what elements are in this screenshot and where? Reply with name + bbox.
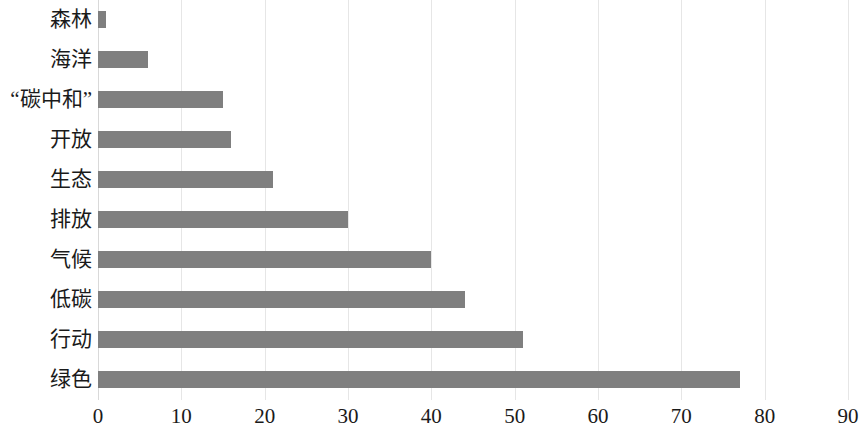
category-label: 森林 (0, 11, 92, 28)
x-tick-label: 30 (338, 406, 359, 427)
bar-row (98, 280, 848, 320)
x-tick-label: 90 (838, 406, 859, 427)
category-label: 海洋 (0, 51, 92, 68)
bar (98, 91, 223, 108)
bar (98, 371, 740, 388)
value-axis: 0102030405060708090 (98, 400, 848, 432)
x-tick-label: 20 (254, 406, 275, 427)
bar-row (98, 360, 848, 400)
bar-row (98, 160, 848, 200)
gridline-90 (848, 0, 849, 400)
x-tick-label: 80 (754, 406, 775, 427)
bar-row (98, 200, 848, 240)
category-label: 生态 (0, 171, 92, 188)
bar (98, 171, 273, 188)
bar (98, 11, 106, 28)
category-label: 低碳 (0, 291, 92, 308)
x-tick-label: 50 (504, 406, 525, 427)
x-tick-label: 60 (588, 406, 609, 427)
bar-row (98, 80, 848, 120)
bar-row (98, 320, 848, 360)
x-tick-label: 40 (421, 406, 442, 427)
category-label: 绿色 (0, 371, 92, 388)
bar-row (98, 40, 848, 80)
bar (98, 251, 431, 268)
bar-row (98, 120, 848, 160)
x-tick-label: 70 (671, 406, 692, 427)
bar (98, 291, 465, 308)
bar (98, 211, 348, 228)
x-tick-label: 0 (93, 406, 104, 427)
bar-row (98, 240, 848, 280)
category-axis: 森林海洋“碳中和”开放生态排放气候低碳行动绿色 (0, 0, 92, 400)
bar-row (98, 0, 848, 40)
bar (98, 331, 523, 348)
category-label: 气候 (0, 251, 92, 268)
category-label: 行动 (0, 331, 92, 348)
bar (98, 131, 231, 148)
bar-chart: 森林海洋“碳中和”开放生态排放气候低碳行动绿色 0102030405060708… (0, 0, 863, 432)
bar (98, 51, 148, 68)
category-label: “碳中和” (0, 91, 92, 108)
x-tick-label: 10 (171, 406, 192, 427)
plot-area (98, 0, 848, 400)
category-label: 排放 (0, 211, 92, 228)
category-label: 开放 (0, 131, 92, 148)
